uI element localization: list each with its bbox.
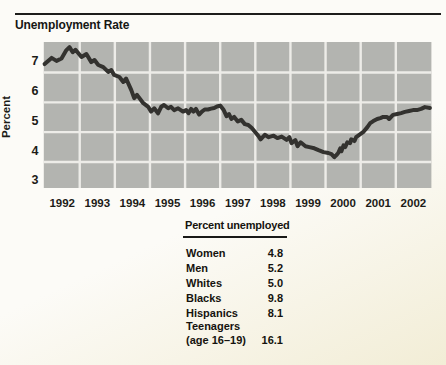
x-tick-label: 1994 — [120, 197, 146, 209]
row-value: 16.1 — [262, 334, 283, 348]
y-tick-label: 3 — [32, 173, 39, 187]
x-tick-label: 2001 — [365, 197, 391, 209]
row-label: Women — [186, 247, 226, 261]
x-tick-label: 1998 — [260, 197, 286, 209]
row-label: Whites — [186, 277, 222, 291]
row-label: Blacks — [186, 292, 221, 306]
figure-unemployment-rate: Unemployment Rate 1992199319941995199619… — [0, 0, 446, 365]
x-tick-label: 1995 — [155, 197, 181, 209]
x-tick-label: 1993 — [85, 197, 111, 209]
unemployment-line-chart: 1992199319941995199619971998199920002001… — [0, 0, 446, 214]
y-tick-label: 6 — [32, 84, 39, 98]
table-row: Whites5.0 — [183, 275, 287, 290]
x-tick-label: 1992 — [49, 197, 75, 209]
plot-background — [44, 42, 432, 188]
y-axis-title: Percent — [0, 96, 12, 138]
table-row: Hispanics8.1 — [183, 305, 287, 320]
row-label: Teenagers (age 16–19) — [186, 320, 246, 347]
x-tick-label: 1999 — [295, 197, 321, 209]
table-row: Blacks9.8 — [183, 290, 287, 305]
row-value: 9.8 — [268, 292, 283, 306]
row-label: Hispanics — [186, 307, 238, 321]
y-tick-label: 7 — [32, 54, 39, 68]
row-value: 8.1 — [268, 307, 283, 321]
row-value: 4.8 — [268, 247, 283, 261]
x-tick-label: 1996 — [190, 197, 216, 209]
table-row: Men5.2 — [183, 260, 287, 275]
y-tick-label: 4 — [32, 144, 39, 158]
table-row: Teenagers (age 16–19)16.1 — [183, 320, 287, 347]
x-tick-label: 2002 — [401, 197, 427, 209]
x-tick-label: 1997 — [225, 197, 251, 209]
percent-unemployed-table: Percent unemployed Women4.8Men5.2Whites5… — [183, 219, 287, 347]
x-tick-label: 2000 — [330, 197, 356, 209]
y-tick-label: 5 — [32, 114, 39, 128]
row-label: Men — [186, 262, 208, 276]
table-header: Percent unemployed — [183, 219, 287, 238]
table-row: Women4.8 — [183, 245, 287, 260]
table-body: Women4.8Men5.2Whites5.0Blacks9.8Hispanic… — [183, 245, 287, 347]
row-value: 5.0 — [268, 277, 283, 291]
row-value: 5.2 — [268, 262, 283, 276]
